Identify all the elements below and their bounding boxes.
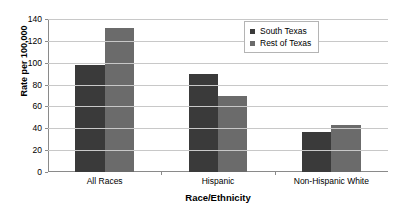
gridline xyxy=(48,63,388,64)
bar[interactable] xyxy=(189,74,218,172)
bars-layer xyxy=(48,19,388,172)
legend-item[interactable]: Rest of Texas xyxy=(250,37,311,49)
bar[interactable] xyxy=(331,125,360,172)
x-tick-label: All Races xyxy=(48,176,161,186)
y-tick-mark xyxy=(45,85,48,86)
gridline xyxy=(48,19,388,20)
legend-swatch-icon xyxy=(250,29,255,34)
x-tick-label: Hispanic xyxy=(161,176,274,186)
gridline xyxy=(48,128,388,129)
bar[interactable] xyxy=(302,132,331,172)
x-axis-title: Race/Ethnicity xyxy=(48,192,388,203)
x-tick-mark xyxy=(161,172,162,175)
gridline xyxy=(48,85,388,86)
y-tick-label: 80 xyxy=(16,81,42,90)
gridline xyxy=(48,41,388,42)
y-tick-label: 40 xyxy=(16,124,42,133)
y-tick-label: 20 xyxy=(16,146,42,155)
bar-group xyxy=(189,19,248,172)
gridline xyxy=(48,106,388,107)
y-tick-mark xyxy=(45,41,48,42)
y-tick-label: 60 xyxy=(16,102,42,111)
y-tick-mark xyxy=(45,128,48,129)
x-tick-label: Non-Hispanic White xyxy=(275,176,388,186)
y-tick-mark xyxy=(45,63,48,64)
legend-swatch-icon xyxy=(250,41,255,46)
y-tick-mark xyxy=(45,150,48,151)
legend-label: South Texas xyxy=(260,27,307,36)
plot-area xyxy=(48,19,388,172)
gridline xyxy=(48,150,388,151)
chart-legend: South TexasRest of Texas xyxy=(244,21,319,53)
legend-label: Rest of Texas xyxy=(260,39,311,48)
bar-chart: Rate per 100,000 020406080100120140 All … xyxy=(0,0,406,220)
y-tick-label: 0 xyxy=(16,168,42,177)
bar[interactable] xyxy=(75,65,104,172)
y-tick-label: 100 xyxy=(16,59,42,68)
y-axis-tick-labels: 020406080100120140 xyxy=(14,0,42,220)
x-tick-mark xyxy=(275,172,276,175)
y-tick-mark xyxy=(45,172,48,173)
y-tick-label: 140 xyxy=(16,15,42,24)
bar-group xyxy=(75,19,134,172)
y-tick-label: 120 xyxy=(16,37,42,46)
legend-item[interactable]: South Texas xyxy=(250,25,311,37)
y-tick-mark xyxy=(45,19,48,20)
y-tick-mark xyxy=(45,106,48,107)
